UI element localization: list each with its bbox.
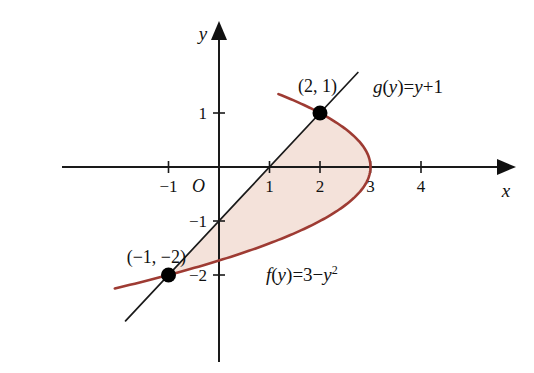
x-tick-label-4: 4	[417, 177, 426, 196]
x-tick-label-1: 1	[265, 177, 274, 196]
origin-label: O	[192, 176, 205, 196]
y-axis-label: y	[197, 23, 208, 44]
point-label-lower: (−1, −2)	[127, 247, 186, 268]
point-label-upper: (2, 1)	[298, 76, 337, 97]
y-axis-arrowhead	[211, 21, 227, 40]
plot-canvas: −112341−1−2Oxy(2, 1)(−1, −2)g(y)=y+1f(y)…	[0, 0, 534, 373]
function-label-f: f(y)=3−y2	[266, 263, 338, 286]
x-axis-label: x	[501, 180, 511, 201]
function-label-g: g(y)=y+1	[373, 76, 443, 98]
x-tick-label-−1: −1	[159, 177, 177, 196]
x-tick-label-2: 2	[316, 177, 325, 196]
point-marker-__1___2_	[161, 268, 176, 283]
math-figure: −112341−1−2Oxy(2, 1)(−1, −2)g(y)=y+1f(y)…	[0, 0, 534, 373]
point-marker-_2__1_	[313, 106, 328, 121]
x-axis-arrowhead	[497, 159, 516, 175]
y-tick-label-−1: −1	[189, 212, 207, 231]
y-tick-label-1: 1	[199, 104, 208, 123]
